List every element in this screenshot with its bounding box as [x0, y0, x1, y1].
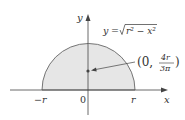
svg-text:): ) [175, 55, 180, 69]
svg-text:r² − x²: r² − x² [126, 26, 156, 36]
svg-text:(0,: (0, [137, 55, 153, 69]
curve-equation-label: y = r² − x² [102, 25, 157, 37]
svg-text:4r: 4r [160, 53, 171, 62]
semicircle-diagram: y x −r 0 r y = r² − x² (0, 4r 3π ) [0, 0, 185, 120]
y-axis-arrow-icon [86, 14, 91, 21]
svg-text:3π: 3π [160, 64, 171, 73]
y-axis-label: y [76, 12, 83, 23]
tick-origin: 0 [80, 94, 86, 105]
tick-neg-r: −r [34, 94, 48, 105]
centroid-coordinate-label: (0, 4r 3π ) [137, 53, 180, 73]
x-axis-arrow-icon [161, 88, 168, 93]
x-axis-label: x [164, 94, 170, 105]
tick-pos-r: r [131, 94, 137, 105]
svg-text:y: y [102, 25, 109, 36]
centroid-point [86, 69, 89, 72]
semicircle-region [42, 43, 135, 90]
svg-text:=: = [111, 25, 119, 36]
